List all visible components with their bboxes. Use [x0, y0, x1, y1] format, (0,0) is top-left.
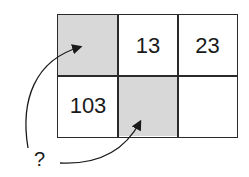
arrow-to-bottom-middle-cell — [60, 122, 140, 163]
question-mark-label: ? — [34, 148, 45, 171]
arrow-to-top-left-cell — [26, 47, 80, 148]
